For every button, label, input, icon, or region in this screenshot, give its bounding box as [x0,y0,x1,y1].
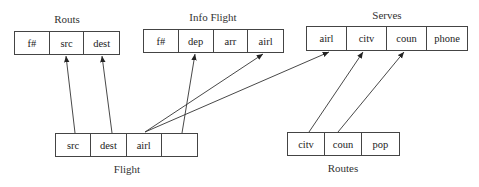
serves-attr-airl: airl [307,27,347,50]
foreign-key-arrow [66,56,75,133]
routes-attr-coun: coun [325,133,362,155]
flight-relation: srcdestairl [55,133,198,157]
flight-attr-airl: airl [127,134,162,156]
info-flight-attr-airl: airl [248,30,283,52]
serves-attr-phone: phone [427,27,467,50]
info-flight-attr-dep: dep [179,30,214,52]
routes-attr-pop: pop [362,133,399,155]
routes-title: Routes [303,162,383,174]
foreign-key-arrow [102,56,112,133]
serves-relation: airlcitvcounphone [306,26,468,51]
foreign-key-arrow [309,52,363,132]
flight-attr-dest: dest [91,134,126,156]
routs-attr-src: src [50,32,85,54]
foreign-key-arrow [182,54,195,133]
info-flight-title: Info Flight [173,11,253,23]
flight-attr-blank [162,134,197,156]
info-flight-relation: f#deparrairl [143,29,284,53]
routs-relation: f#srcdest [14,31,120,55]
routes-relation: citvcounpop [287,132,400,156]
routs-attr-f-num: f# [15,32,50,54]
serves-attr-citv: citv [347,27,387,50]
foreign-key-arrow [338,52,404,132]
foreign-key-arrow [145,54,263,132]
serves-attr-coun: coun [387,27,427,50]
routs-title: Routs [27,13,107,25]
info-flight-attr-f-num: f# [144,30,179,52]
routs-attr-dest: dest [84,32,119,54]
flight-attr-src: src [56,134,91,156]
routes-attr-citv: citv [288,133,325,155]
foreign-key-arrow [145,52,329,132]
info-flight-attr-arr: arr [214,30,249,52]
flight-title: Flight [87,163,167,175]
serves-title: Serves [347,9,427,21]
